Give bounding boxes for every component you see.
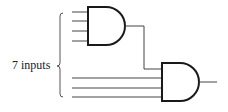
input-brace bbox=[57, 13, 63, 97]
and-gate-1 bbox=[88, 7, 125, 45]
gate1-to-gate2-wire bbox=[125, 26, 162, 69]
and-gate-2 bbox=[162, 63, 199, 101]
gate2-input-wires bbox=[72, 78, 162, 97]
logic-circuit-diagram bbox=[0, 0, 228, 112]
gate1-input-wires bbox=[72, 12, 88, 41]
